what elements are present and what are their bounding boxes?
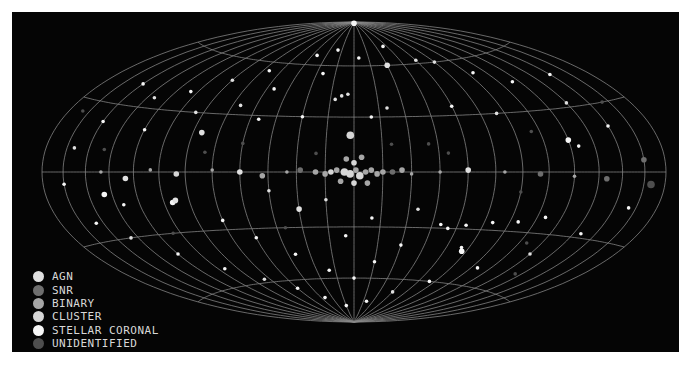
legend-label: SNR bbox=[52, 284, 73, 297]
source-point-stellar bbox=[491, 221, 495, 225]
source-point-stellar bbox=[176, 252, 180, 256]
source-point-agn bbox=[237, 169, 243, 175]
source-point-unid bbox=[203, 151, 207, 155]
source-points bbox=[62, 21, 655, 308]
source-point-stellar bbox=[357, 56, 361, 60]
legend-dot-binary bbox=[33, 298, 44, 309]
source-point-binary bbox=[353, 167, 359, 173]
legend-item-unidentified: UNIDENTIFIED bbox=[33, 337, 159, 350]
source-point-stellar bbox=[352, 276, 356, 280]
source-point-binary bbox=[285, 170, 289, 174]
source-point-stellar bbox=[141, 82, 145, 86]
source-point-stellar bbox=[294, 252, 298, 256]
source-point-snr bbox=[641, 157, 647, 163]
source-point-stellar bbox=[344, 234, 348, 238]
source-point-unid bbox=[314, 152, 318, 156]
source-point-agn bbox=[153, 96, 157, 100]
source-point-stellar bbox=[370, 115, 374, 119]
source-point-agn bbox=[333, 98, 337, 102]
source-point-stellar bbox=[101, 120, 105, 124]
source-point-stellar bbox=[606, 124, 610, 128]
source-point-cluster bbox=[351, 160, 357, 166]
source-point-binary bbox=[363, 169, 369, 175]
legend-dot-snr bbox=[33, 285, 44, 296]
legend-item-cluster: CLUSTER bbox=[33, 310, 159, 323]
source-point-unid bbox=[600, 100, 604, 104]
source-point-binary bbox=[313, 169, 319, 175]
legend-item-agn: AGN bbox=[33, 270, 159, 283]
source-point-stellar bbox=[459, 249, 465, 255]
source-point-stellar bbox=[122, 203, 126, 207]
source-point-unid bbox=[390, 142, 394, 146]
source-point-stellar bbox=[464, 224, 468, 228]
source-point-agn bbox=[129, 236, 133, 240]
source-point-stellar bbox=[516, 220, 520, 224]
source-point-stellar bbox=[428, 280, 432, 284]
source-point-binary bbox=[338, 179, 344, 185]
source-point-stellar bbox=[336, 48, 340, 52]
source-point-agn bbox=[194, 111, 198, 115]
source-point-stellar bbox=[566, 137, 572, 143]
source-point-stellar bbox=[439, 223, 443, 227]
source-point-stellar bbox=[471, 71, 475, 75]
source-point-agn bbox=[414, 59, 418, 63]
source-point-binary bbox=[374, 171, 380, 177]
source-point-agn bbox=[391, 290, 395, 294]
legend-item-stellar-coronal: STELLAR CORONAL bbox=[33, 324, 159, 337]
source-point-cluster bbox=[356, 172, 364, 180]
source-point-stellar bbox=[102, 192, 108, 198]
source-point-agn bbox=[433, 60, 437, 64]
source-point-unid bbox=[427, 142, 431, 146]
source-point-stellar bbox=[627, 206, 631, 210]
source-point-cluster bbox=[346, 170, 354, 178]
source-point-stellar bbox=[189, 90, 193, 94]
source-point-unid bbox=[513, 272, 517, 276]
legend-dot-cluster bbox=[33, 311, 44, 322]
source-point-agn bbox=[385, 106, 389, 110]
source-point-agn bbox=[528, 252, 532, 256]
source-point-agn bbox=[263, 278, 267, 282]
source-point-agn bbox=[346, 92, 350, 96]
source-point-stellar bbox=[301, 115, 305, 119]
source-point-binary bbox=[380, 169, 386, 175]
source-point-stellar bbox=[370, 216, 374, 220]
source-point-stellar bbox=[223, 267, 227, 271]
source-point-stellar bbox=[544, 216, 548, 220]
source-point-stellar bbox=[450, 104, 454, 108]
source-point-binary bbox=[359, 154, 365, 160]
legend-item-snr: SNR bbox=[33, 283, 159, 296]
source-point-unid bbox=[81, 109, 85, 113]
source-point-stellar bbox=[221, 219, 225, 223]
source-point-stellar bbox=[381, 45, 385, 49]
source-point-unid bbox=[519, 190, 523, 194]
source-point-binary bbox=[573, 175, 577, 179]
source-point-stellar bbox=[323, 296, 327, 300]
legend-dot-stellar-coronal bbox=[33, 325, 44, 336]
source-point-unid bbox=[284, 226, 288, 230]
source-point-stellar bbox=[255, 236, 259, 240]
source-point-binary bbox=[210, 168, 214, 172]
legend-label: STELLAR CORONAL bbox=[52, 324, 159, 337]
source-point-binary bbox=[369, 167, 375, 173]
source-point-stellar bbox=[95, 222, 99, 226]
source-point-cluster bbox=[174, 171, 180, 177]
source-point-stellar bbox=[579, 232, 583, 236]
source-point-snr bbox=[604, 176, 610, 182]
source-point-stellar bbox=[315, 54, 319, 58]
source-point-agn bbox=[384, 63, 390, 69]
source-point-stellar bbox=[351, 21, 357, 27]
source-point-stellar bbox=[548, 73, 552, 77]
source-point-agn bbox=[267, 189, 271, 193]
legend-label: CLUSTER bbox=[52, 310, 102, 323]
legend-label: UNIDENTIFIED bbox=[52, 337, 137, 350]
source-point-stellar bbox=[327, 268, 331, 272]
source-point-cluster bbox=[347, 131, 355, 139]
source-point-stellar bbox=[365, 300, 369, 304]
source-point-binary bbox=[344, 156, 350, 162]
source-point-agn bbox=[173, 198, 179, 204]
source-point-stellar bbox=[476, 266, 480, 270]
source-point-binary bbox=[149, 168, 153, 172]
source-point-agn bbox=[340, 94, 344, 98]
source-point-stellar bbox=[577, 144, 581, 148]
source-point-stellar bbox=[399, 243, 403, 247]
